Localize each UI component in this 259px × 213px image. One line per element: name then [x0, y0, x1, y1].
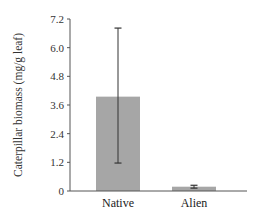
bars [96, 28, 216, 191]
y-tick-label: 4.8 [50, 70, 64, 82]
y-tick-label: 6.0 [50, 42, 64, 54]
y-tick-label: 2.4 [50, 128, 64, 140]
y-tick-label: 1.2 [50, 156, 64, 168]
y-tick-label: 7.2 [50, 13, 64, 25]
y-tick-label: 3.6 [50, 99, 64, 111]
bar-chart: Caterpillar biomass (mg/g leaf) 01.22.43… [0, 0, 259, 213]
x-axis: NativeAlien [70, 191, 247, 210]
y-axis-title: Caterpillar biomass (mg/g leaf) [12, 33, 25, 177]
y-axis-label: Caterpillar biomass (mg/g leaf) [12, 33, 25, 177]
x-category-label: Alien [181, 196, 208, 210]
x-category-label: Native [102, 196, 134, 210]
y-axis: 01.22.43.64.86.07.2 [50, 13, 70, 197]
y-tick-label: 0 [59, 185, 65, 197]
